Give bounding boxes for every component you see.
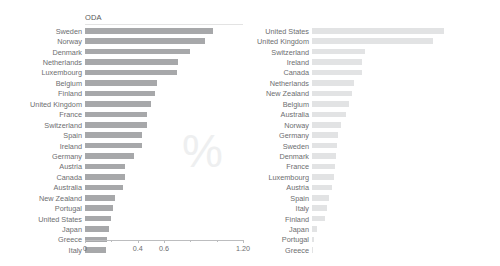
bar-row: Sweden	[250, 141, 500, 151]
bar-row: Finland	[250, 214, 500, 224]
bar-row-label: Australia	[250, 110, 312, 119]
axis-minor-tick	[111, 240, 112, 242]
bar	[85, 80, 157, 86]
bar	[85, 70, 177, 76]
bar-row: Netherlands	[0, 57, 250, 67]
bar-row: Greece	[250, 245, 500, 255]
bar-row: Austria	[250, 183, 500, 193]
bar-row: Norway	[250, 120, 500, 130]
bar-row-label: United Kingdom	[0, 100, 85, 109]
bar-row-label: New Zealand	[0, 194, 85, 203]
bar-row-label: United States	[0, 215, 85, 224]
bar-track	[85, 120, 250, 130]
bar	[312, 205, 327, 211]
bar	[312, 237, 314, 243]
bar-row-label: Luxembourg	[250, 173, 312, 182]
philanthropy-bar-rows: United StatesUnited KingdomSwitzerlandIr…	[250, 26, 500, 256]
axis-major-tick	[138, 240, 139, 243]
bar-row-label: Denmark	[250, 152, 312, 161]
axis-tick-label: 0	[83, 244, 87, 253]
bar-track	[85, 203, 250, 213]
bar-row-label: Germany	[250, 131, 312, 140]
bar-row: New Zealand	[0, 193, 250, 203]
bar-track	[312, 245, 500, 255]
bar-track	[85, 162, 250, 172]
bar	[85, 153, 134, 159]
bar-row-label: Netherlands	[250, 79, 312, 88]
axis-minor-tick	[190, 240, 191, 242]
bar-row-label: France	[0, 110, 85, 119]
bar-track	[312, 57, 500, 67]
bar	[85, 195, 115, 201]
bar-row: Netherlands	[250, 78, 500, 88]
bar	[312, 164, 335, 170]
axis-tick-label: 0.6	[159, 244, 169, 253]
bar-track	[312, 68, 500, 78]
bar	[85, 112, 147, 118]
bar-row: Canada	[250, 68, 500, 78]
bar	[312, 247, 313, 253]
bar-track	[85, 193, 250, 203]
axis-major-tick	[85, 240, 86, 243]
bar-row: Luxembourg	[0, 68, 250, 78]
bar-track	[312, 172, 500, 182]
bar	[312, 185, 332, 191]
bar-track	[85, 151, 250, 161]
bar	[85, 28, 213, 34]
bar-row: Ireland	[250, 57, 500, 67]
bar-row: France	[0, 110, 250, 120]
bar	[312, 49, 365, 55]
bar-row-label: Japan	[250, 225, 312, 234]
bar-track	[312, 151, 500, 161]
bar	[85, 164, 125, 170]
bar-track	[312, 36, 500, 46]
bar	[85, 174, 125, 180]
bar-row-label: Belgium	[250, 100, 312, 109]
bar	[312, 132, 338, 138]
bar-row-label: Austria	[0, 162, 85, 171]
bar	[85, 143, 142, 149]
oda-chart-panel: ODA SwedenNorwayDenmarkNetherlandsLuxemb…	[0, 0, 250, 266]
bar-row: Japan	[250, 224, 500, 234]
bar-row-label: Sweden	[250, 142, 312, 151]
bar-row-label: Canada	[0, 173, 85, 182]
bar-row-label: Spain	[0, 131, 85, 140]
bar-row: Australia	[0, 183, 250, 193]
bar-track	[312, 26, 500, 36]
bar-row-label: Japan	[0, 225, 85, 234]
bar-track	[85, 78, 250, 88]
axis-tick-label: 1.20	[236, 244, 250, 253]
bar-row-label: Ireland	[250, 58, 312, 67]
bar-row-label: Denmark	[0, 48, 85, 57]
bar-row-label: Austria	[250, 183, 312, 192]
bar	[312, 143, 337, 149]
bar-row-label: Belgium	[0, 79, 85, 88]
oda-bar-rows: SwedenNorwayDenmarkNetherlandsLuxembourg…	[0, 26, 250, 256]
axis-minor-tick	[217, 240, 218, 242]
bar-track	[85, 172, 250, 182]
bar-track	[85, 47, 250, 57]
oda-top-rule	[85, 24, 243, 25]
bar	[312, 59, 362, 65]
bar-track	[312, 235, 500, 245]
bar-row: New Zealand	[250, 89, 500, 99]
bar-track	[312, 47, 500, 57]
bar-row-label: Australia	[0, 183, 85, 192]
bar-track	[312, 130, 500, 140]
bar-track	[85, 224, 250, 234]
bar	[312, 28, 444, 34]
bar-track	[85, 99, 250, 109]
bar-row: Spain	[0, 130, 250, 140]
philanthropy-chart-panel: Philanthropy* United StatesUnited Kingdo…	[250, 0, 500, 266]
bar-row: Germany	[250, 130, 500, 140]
bar-row-label: Finland	[0, 89, 85, 98]
bar-row-label: United Kingdom	[250, 37, 312, 46]
bar	[85, 216, 111, 222]
bar-track	[85, 183, 250, 193]
bar-track	[312, 162, 500, 172]
bar-row-label: Finland	[250, 215, 312, 224]
bar-track	[312, 203, 500, 213]
bar-track	[312, 193, 500, 203]
dual-bar-chart-figure: ODA SwedenNorwayDenmarkNetherlandsLuxemb…	[0, 0, 500, 266]
bar-row: United Kingdom	[0, 99, 250, 109]
